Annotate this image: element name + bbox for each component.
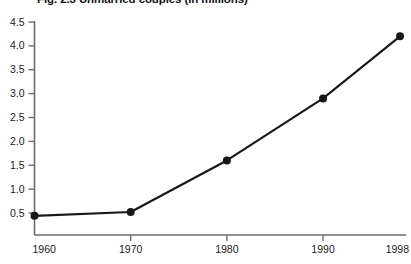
data-point-marker [31,212,39,220]
y-tick-label: 4.0 [10,39,25,51]
x-tick-label: 1960 [33,243,57,255]
line-chart: 4.54.03.53.02.52.01.51.00.5 196019701980… [0,0,411,264]
x-tick-label: 1998 [386,243,410,255]
y-tick-label: 1.0 [10,183,25,195]
y-tick-label: 1.5 [10,159,25,171]
figure-container: Fig. 2.3 Unmarried couples (in millions)… [0,0,411,264]
y-axis-tick-labels: 4.54.03.53.02.52.01.51.00.5 [10,16,25,219]
x-tick-label: 1980 [215,243,239,255]
x-axis-tick-marks [131,235,323,241]
data-point-marker [127,208,135,216]
y-tick-label: 0.5 [10,207,25,219]
series-line-unmarried-couples [35,36,401,216]
data-point-marker [319,94,327,102]
data-point-marker [223,156,231,164]
y-tick-label: 3.0 [10,87,25,99]
y-tick-label: 2.5 [10,111,25,123]
y-axis-tick-marks [29,22,35,213]
data-point-marker [396,32,404,40]
x-axis-tick-labels: 19601970198019901998 [33,243,410,255]
y-tick-label: 2.0 [10,135,25,147]
x-tick-label: 1970 [119,243,143,255]
y-tick-label: 3.5 [10,63,25,75]
x-tick-label: 1990 [311,243,335,255]
y-tick-label: 4.5 [10,16,25,28]
series-markers [31,32,405,220]
